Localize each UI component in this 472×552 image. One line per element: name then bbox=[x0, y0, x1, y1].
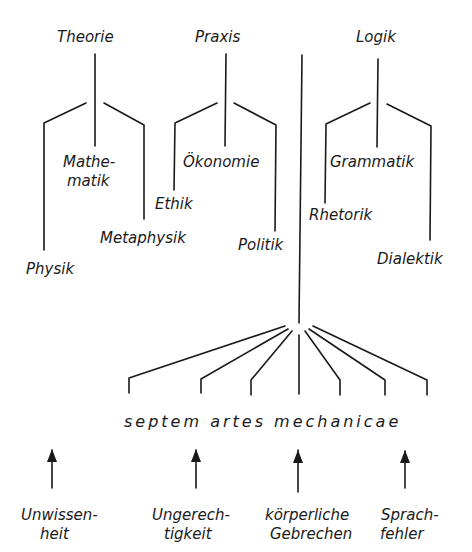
arrowhead-icon bbox=[400, 450, 410, 463]
fan-line bbox=[309, 329, 385, 395]
arrowhead-icon bbox=[191, 449, 201, 462]
logik-group: Logik Grammatik Rhetorik Dialektik bbox=[309, 28, 444, 268]
connector-line bbox=[174, 103, 217, 190]
label-dialektik: Dialektik bbox=[377, 250, 444, 268]
fan-line bbox=[129, 326, 285, 393]
label-septem-artes-mechanicae: septem artes mechanicae bbox=[124, 412, 401, 431]
cause-ungerechtigkeit-line2: tigkeit bbox=[164, 525, 213, 543]
cause-sprachfehler-line1: Sprach- bbox=[381, 506, 439, 524]
label-metaphysik: Metaphysik bbox=[100, 229, 187, 247]
arts-classification-diagram: Theorie Physik Mathe- matik Metaphysik P… bbox=[0, 0, 472, 552]
label-mathematik-line1: Mathe- bbox=[63, 153, 115, 171]
cause-ungerechtigkeit-line1: Ungerech- bbox=[152, 506, 230, 524]
central-trunk-line bbox=[299, 55, 302, 323]
cause-sprachfehler-line2: fehler bbox=[380, 525, 424, 543]
fan-line bbox=[313, 326, 427, 395]
theorie-group: Theorie Physik Mathe- matik Metaphysik bbox=[26, 28, 187, 278]
cause-unwissenheit-line2: heit bbox=[40, 525, 70, 543]
root-praxis: Praxis bbox=[195, 28, 240, 46]
cause-koerperliche-gebrechen-line2: Gebrechen bbox=[270, 525, 352, 543]
cause-unwissenheit-line1: Unwissen- bbox=[21, 506, 98, 524]
connector-line bbox=[387, 104, 431, 240]
fan-line bbox=[251, 331, 292, 395]
label-oekonomie: Ökonomie bbox=[183, 152, 259, 171]
cause-koerperliche-gebrechen-line1: körperliche bbox=[265, 506, 349, 524]
connector-line bbox=[377, 59, 378, 147]
arrowhead-icon bbox=[47, 449, 57, 462]
fan-line bbox=[305, 331, 340, 395]
root-theorie: Theorie bbox=[57, 28, 114, 46]
arrowhead-icon bbox=[293, 450, 303, 463]
causes-group: Unwissen- heit Ungerech- tigkeit körperl… bbox=[21, 449, 439, 543]
praxis-group: Praxis Ethik Ökonomie Politik bbox=[155, 28, 285, 254]
label-politik: Politik bbox=[238, 236, 285, 254]
connector-line bbox=[225, 54, 226, 146]
label-grammatik: Grammatik bbox=[330, 153, 415, 171]
label-mathematik-line2: matik bbox=[67, 172, 111, 190]
root-logik: Logik bbox=[356, 28, 397, 46]
label-ethik: Ethik bbox=[155, 195, 194, 213]
fan-line bbox=[201, 329, 288, 393]
label-rhetorik: Rhetorik bbox=[309, 206, 374, 224]
label-physik: Physik bbox=[26, 260, 75, 278]
